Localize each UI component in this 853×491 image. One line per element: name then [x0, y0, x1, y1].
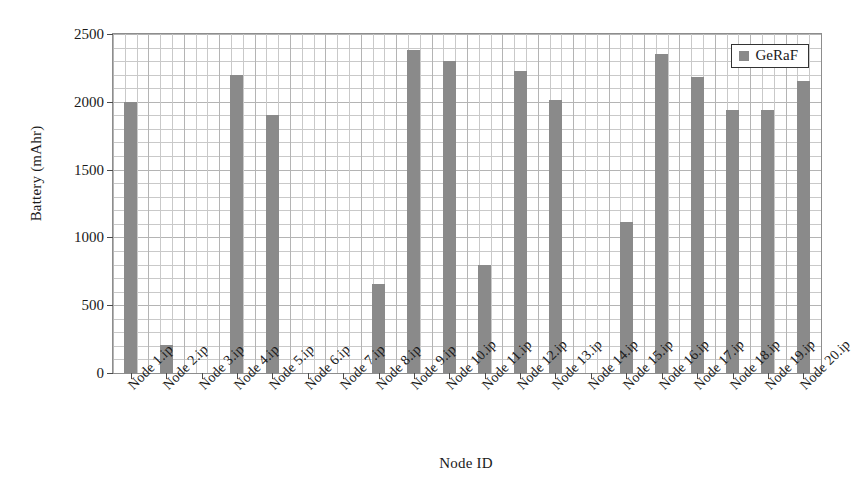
plot-area: GeRaF 05001000150020002500Node 1.ipNode …	[112, 33, 822, 374]
bar	[514, 71, 527, 373]
y-tick-mark	[107, 305, 113, 306]
y-tick-label: 2000	[74, 94, 104, 111]
y-tick-label: 1000	[74, 229, 104, 246]
chart-legend: GeRaF	[731, 44, 810, 68]
bar	[549, 100, 562, 373]
bar-chart-figure: Battery (mAhr) GeRaF 0500100015002000250…	[0, 0, 853, 491]
bar	[726, 110, 739, 373]
y-tick-mark	[107, 34, 113, 35]
bar	[124, 102, 137, 373]
bar	[761, 110, 774, 373]
y-tick-mark	[107, 102, 113, 103]
y-axis-title: Battery (mAhr)	[28, 54, 45, 294]
bar	[407, 50, 420, 373]
bar	[266, 115, 279, 373]
y-tick-mark	[107, 170, 113, 171]
bar	[443, 61, 456, 373]
y-tick-mark	[107, 237, 113, 238]
legend-label-geraf: GeRaF	[756, 48, 799, 63]
bar-series-geraf	[113, 34, 821, 373]
y-tick-mark	[107, 373, 113, 374]
bar	[655, 54, 668, 373]
bar	[230, 75, 243, 373]
y-tick-label: 0	[97, 365, 105, 382]
x-axis-title: Node ID	[112, 455, 820, 472]
y-tick-label: 500	[82, 297, 105, 314]
y-tick-label: 2500	[74, 26, 104, 43]
legend-swatch-geraf	[739, 51, 749, 61]
bar	[691, 77, 704, 373]
y-tick-label: 1500	[74, 162, 104, 179]
bar	[797, 81, 810, 373]
